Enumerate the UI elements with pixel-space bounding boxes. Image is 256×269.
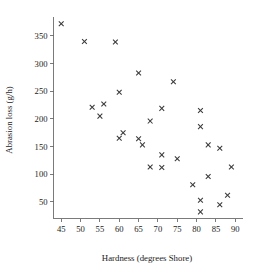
data-point-marker: [198, 124, 203, 129]
y-tick-label: 50: [39, 197, 48, 207]
data-point-marker: [136, 71, 141, 76]
data-point-marker: [190, 182, 195, 187]
y-tick-label: 300: [35, 59, 48, 69]
x-tick-label: 75: [173, 224, 182, 234]
data-point-marker: [206, 174, 211, 179]
data-point-marker: [90, 105, 95, 110]
x-tick-label: 50: [76, 224, 85, 234]
y-tick-label: 100: [35, 169, 48, 179]
data-point-marker: [206, 142, 211, 147]
y-tick-label: 350: [35, 31, 48, 41]
data-point-marker: [101, 102, 106, 107]
data-point-marker: [217, 202, 222, 207]
data-point-marker: [159, 106, 164, 111]
x-axis-title: Hardness (degrees Shore): [102, 253, 192, 263]
scatter-chart: 45505560657075808590 5010015020025030035…: [0, 0, 256, 269]
data-point-marker: [171, 79, 176, 84]
data-point-marker: [148, 119, 153, 124]
x-tick-label: 80: [192, 224, 201, 234]
y-tick-label: 250: [35, 86, 48, 96]
data-point-marker: [140, 142, 145, 147]
data-point-marker: [98, 114, 103, 119]
x-axis-ticks: 45505560657075808590: [57, 219, 240, 234]
x-tick-label: 85: [212, 224, 221, 234]
x-tick-label: 70: [154, 224, 163, 234]
data-point-marker: [159, 165, 164, 170]
x-tick-label: 55: [96, 224, 105, 234]
data-point-marker: [117, 136, 122, 141]
data-points: [59, 21, 234, 214]
x-tick-label: 60: [115, 224, 124, 234]
data-point-marker: [198, 108, 203, 113]
data-point-marker: [121, 130, 126, 135]
y-tick-label: 150: [35, 142, 48, 152]
data-point-marker: [82, 39, 87, 44]
data-point-marker: [198, 198, 203, 203]
data-point-marker: [159, 152, 164, 157]
data-point-marker: [198, 209, 203, 214]
data-point-marker: [225, 193, 230, 198]
y-axis-title: Abrasion loss (g/h): [4, 86, 14, 154]
data-point-marker: [113, 40, 118, 45]
data-point-marker: [136, 136, 141, 141]
data-point-marker: [217, 146, 222, 151]
data-point-marker: [59, 21, 64, 26]
y-axis-ticks: 50100150200250300350: [35, 31, 54, 207]
x-tick-label: 90: [231, 224, 240, 234]
data-point-marker: [229, 165, 234, 170]
x-tick-label: 45: [57, 224, 66, 234]
axis-group: [54, 17, 244, 219]
x-tick-label: 65: [134, 224, 143, 234]
y-tick-label: 200: [35, 114, 48, 124]
data-point-marker: [117, 90, 122, 95]
data-point-marker: [148, 165, 153, 170]
plot-svg: 45505560657075808590 5010015020025030035…: [0, 0, 256, 269]
data-point-marker: [175, 156, 180, 161]
